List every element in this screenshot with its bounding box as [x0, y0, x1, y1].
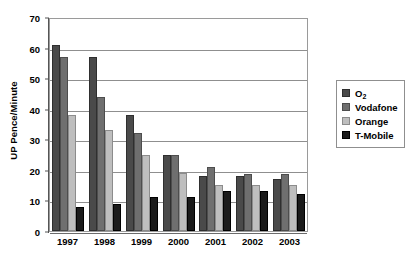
- x-tick-label-2000: 2000: [160, 236, 197, 247]
- bar-o2-2002: [236, 176, 244, 231]
- y-tick-label: 50: [5, 74, 45, 85]
- bar-t-mobile-1997: [76, 207, 84, 231]
- bar-group-1997: [50, 19, 87, 231]
- bar-o2-2000: [163, 155, 171, 231]
- y-tick-label: 60: [5, 43, 45, 54]
- bar-o2-2003: [273, 179, 281, 231]
- x-tick-label-1998: 1998: [86, 236, 123, 247]
- legend-swatch-icon: [342, 89, 350, 97]
- bar-group-2002: [234, 19, 271, 231]
- legend-label: T-Mobile: [355, 130, 394, 141]
- bar-o2-1999: [126, 115, 134, 231]
- bar-o2-1997: [52, 45, 60, 231]
- x-axis-labels: 1997199819992000200120022003: [49, 236, 308, 247]
- bar-orange-2000: [179, 173, 187, 231]
- bar-orange-2001: [215, 185, 223, 231]
- bar-orange-1999: [142, 155, 150, 231]
- y-axis-title-text: UP Pence/Minute: [8, 81, 19, 159]
- bar-t-mobile-2000: [187, 197, 195, 231]
- bar-group-2003: [270, 19, 307, 231]
- legend-label: Orange: [355, 116, 388, 127]
- plot-area: [49, 18, 308, 232]
- y-tick-label: 20: [5, 165, 45, 176]
- legend-label: O2: [355, 88, 366, 99]
- bar-orange-1997: [68, 115, 76, 231]
- y-tick-label: 30: [5, 135, 45, 146]
- bar-groups: [50, 19, 307, 231]
- bar-vodafone-2002: [244, 174, 252, 231]
- bar-vodafone-1997: [60, 57, 68, 231]
- legend-swatch-icon: [342, 131, 350, 139]
- bar-orange-1998: [105, 130, 113, 231]
- y-tick-label: 10: [5, 196, 45, 207]
- bar-t-mobile-2002: [260, 191, 268, 231]
- legend-swatch-icon: [342, 103, 350, 111]
- bar-vodafone-2003: [281, 174, 289, 231]
- legend-item-o2[interactable]: O2: [342, 86, 398, 100]
- bar-group-1998: [87, 19, 124, 231]
- legend-item-t-mobile[interactable]: T-Mobile: [342, 128, 398, 142]
- bar-t-mobile-1999: [150, 197, 158, 231]
- y-tick-label: 70: [5, 13, 45, 24]
- bar-group-1999: [123, 19, 160, 231]
- x-tick-label-2001: 2001: [197, 236, 234, 247]
- bar-vodafone-1998: [97, 97, 105, 232]
- bar-vodafone-2001: [207, 167, 215, 231]
- y-tick-label: 0: [5, 227, 45, 238]
- x-tick-label-2003: 2003: [271, 236, 308, 247]
- legend-item-orange[interactable]: Orange: [342, 114, 398, 128]
- bar-t-mobile-2001: [223, 191, 231, 231]
- y-tick-label: 40: [5, 104, 45, 115]
- x-tick-label-1999: 1999: [123, 236, 160, 247]
- bar-orange-2002: [252, 185, 260, 231]
- bar-t-mobile-2003: [297, 194, 305, 231]
- legend-label: Vodafone: [355, 102, 398, 113]
- bar-group-2001: [197, 19, 234, 231]
- bar-chart: UP Pence/Minute 010203040506070 19971998…: [0, 0, 415, 268]
- chart-legend: O2VodafoneOrangeT-Mobile: [336, 80, 405, 148]
- legend-swatch-icon: [342, 117, 350, 125]
- legend-label-subscript: 2: [362, 93, 366, 100]
- bar-t-mobile-1998: [113, 204, 121, 232]
- bar-o2-1998: [89, 57, 97, 231]
- bar-orange-2003: [289, 185, 297, 231]
- bar-group-2000: [160, 19, 197, 231]
- x-tick-label-2002: 2002: [234, 236, 271, 247]
- bar-o2-2001: [199, 176, 207, 231]
- x-tick-label-1997: 1997: [49, 236, 86, 247]
- bar-vodafone-2000: [171, 155, 179, 231]
- gridline-0: [50, 233, 307, 234]
- bar-vodafone-1999: [134, 133, 142, 231]
- legend-item-vodafone[interactable]: Vodafone: [342, 100, 398, 114]
